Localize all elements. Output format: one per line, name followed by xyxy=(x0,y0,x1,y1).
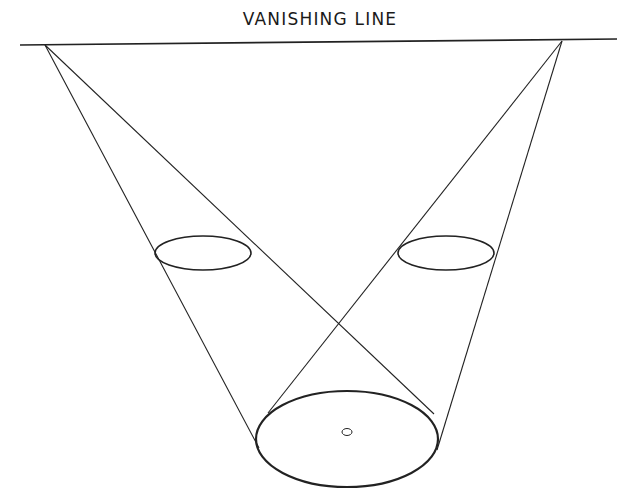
horizon-line xyxy=(20,39,617,45)
center-dot xyxy=(342,429,352,436)
tangent-line-3 xyxy=(268,41,562,413)
tangent-line-1 xyxy=(45,45,259,448)
tangent-lines xyxy=(45,41,562,450)
ellipses xyxy=(155,236,494,487)
small-ellipse-right xyxy=(398,236,494,270)
tangent-line-2 xyxy=(45,45,434,414)
large-base-ellipse xyxy=(256,391,438,487)
small-ellipse-left xyxy=(155,236,251,270)
tangent-line-4 xyxy=(437,41,562,450)
perspective-diagram xyxy=(0,0,624,500)
